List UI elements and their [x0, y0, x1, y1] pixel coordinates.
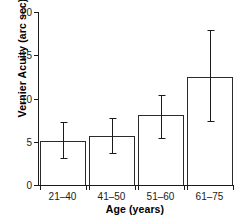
y-axis-tick-label: 20 [21, 7, 32, 18]
error-bar-cap-lower [109, 153, 116, 154]
error-bar-cap-lower [60, 158, 67, 159]
error-bar-cap-upper [109, 118, 116, 119]
y-axis-tick [34, 12, 38, 13]
y-axis-tick [34, 185, 38, 186]
x-axis-tick [89, 185, 90, 190]
x-axis-tick [233, 185, 234, 190]
x-axis-tick [138, 185, 139, 190]
x-axis-tick-label: 61–75 [196, 191, 224, 202]
x-axis-tick [135, 185, 136, 190]
x-axis-line [38, 185, 234, 186]
error-bar-cap-lower [158, 138, 165, 139]
error-bar-cap-lower [207, 121, 214, 122]
x-axis-tick-label: 51–60 [147, 191, 175, 202]
x-axis-tick [40, 185, 41, 190]
y-axis-tick-label: 0 [26, 180, 32, 191]
y-axis-tick-label: 10 [21, 93, 32, 104]
x-axis-title: Age (years) [36, 203, 234, 215]
x-axis-tick [184, 185, 185, 190]
error-bar [63, 122, 64, 158]
y-axis-tick [34, 99, 38, 100]
y-axis-title: Vernier Acuity (arc sec) [16, 0, 28, 138]
error-bar-cap-upper [207, 30, 214, 31]
plot-area: 0510152021–4041–5051–6061–75 [38, 12, 234, 185]
x-axis-tick-label: 21–40 [49, 191, 77, 202]
y-axis-tick [34, 142, 38, 143]
error-bar [210, 30, 211, 121]
error-bar [161, 95, 162, 138]
error-bar-cap-upper [158, 95, 165, 96]
vernier-acuity-bar-chart: Vernier Acuity (arc sec) 0510152021–4041… [0, 0, 240, 221]
error-bar-cap-upper [60, 122, 67, 123]
x-axis-tick [86, 185, 87, 190]
y-axis-tick [34, 55, 38, 56]
x-axis-tick-label: 41–50 [98, 191, 126, 202]
x-axis-tick [187, 185, 188, 190]
y-axis-tick-label: 15 [21, 50, 32, 61]
error-bar [112, 118, 113, 153]
y-axis-tick-label: 5 [26, 136, 32, 147]
